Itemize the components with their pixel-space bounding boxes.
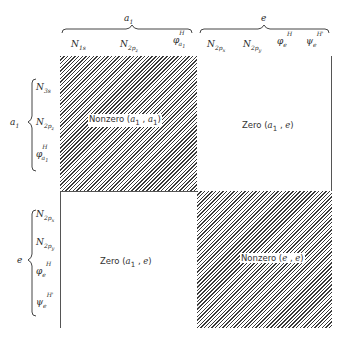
row-header-phi-e-h: φeH bbox=[36, 265, 51, 278]
row-group-a1: a1 bbox=[10, 118, 19, 129]
block-nonzero-e-e: Nonzero (e , e) bbox=[197, 191, 332, 328]
row-header-n2pz: N2pz bbox=[36, 118, 54, 131]
block-zero-e-a1: Zero (a1 , e) bbox=[60, 191, 197, 328]
column-header-phi-a1-h: φHa1 bbox=[173, 34, 185, 49]
block-label-nonzero-a1-a1: Nonzero (a1 , a1) bbox=[88, 114, 162, 127]
block-nonzero-a1-a1: Nonzero (a1 , a1) bbox=[60, 56, 197, 191]
row-header-psi-e-h-prime: ψeH' bbox=[36, 296, 54, 309]
block-zero-a1-e: Zero (a1 , e) bbox=[197, 56, 332, 191]
row-group-e: e bbox=[17, 256, 22, 265]
column-header-n2pz: N2pz bbox=[120, 40, 138, 53]
column-header-n1s: N1s bbox=[71, 40, 86, 51]
row-header-n2py: N2py bbox=[36, 238, 54, 251]
block-label-nonzero-e-e: Nonzero (e , e) bbox=[240, 253, 305, 263]
column-group-a1: a1 bbox=[124, 14, 133, 25]
row-header-n1s: N3s bbox=[36, 83, 51, 94]
column-header-n2px: N2px bbox=[207, 40, 225, 53]
row-header-n2px: N2px bbox=[36, 210, 54, 223]
column-header-psi-e-h-prime: ψeH' bbox=[306, 35, 324, 48]
block-label-zero-a1-e: Zero (a1 , e) bbox=[241, 120, 295, 133]
column-group-e: e bbox=[261, 14, 266, 23]
block-label-zero-e-a1: Zero (a1 , e) bbox=[99, 256, 153, 269]
column-header-phi-e-h: φeH bbox=[277, 35, 292, 48]
column-header-n2py: N2py bbox=[243, 40, 261, 53]
row-header-phi-a1-h: φHa1 bbox=[36, 148, 48, 163]
